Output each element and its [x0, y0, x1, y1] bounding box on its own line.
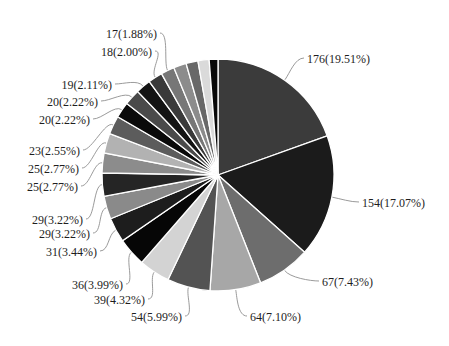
leader-line [185, 288, 189, 316]
slice-label: 176(19.51%) [307, 52, 370, 66]
slice-label: 29(3.22%) [39, 227, 90, 241]
slice-label: 20(2.22%) [47, 95, 98, 109]
leader-line [285, 271, 319, 282]
slice-label: 29(3.22%) [32, 213, 83, 227]
slice-label: 23(2.55%) [29, 144, 80, 158]
leader-line [100, 230, 116, 251]
slice-label: 17(1.88%) [106, 27, 157, 41]
leader-line [86, 185, 102, 219]
leader-line [160, 33, 167, 70]
leader-line [148, 272, 154, 299]
slice-label: 25(2.77%) [27, 180, 78, 194]
leader-line [154, 51, 158, 77]
slice-label: 20(2.22%) [39, 113, 90, 127]
pie-slices [102, 59, 334, 291]
leader-line [126, 253, 131, 285]
slice-label: 25(2.77%) [28, 162, 79, 176]
slice-label: 19(2.11%) [61, 78, 112, 92]
slice-label: 18(2.00%) [101, 45, 152, 59]
slice-label: 39(4.32%) [94, 293, 145, 307]
slice-label: 54(5.99%) [131, 310, 182, 324]
leader-line [236, 290, 247, 316]
pie-chart-canvas: 176(19.51%)154(17.07%)67(7.43%)64(7.10%)… [0, 0, 449, 346]
slice-label: 36(3.99%) [72, 278, 123, 292]
leader-line [332, 197, 359, 202]
pie-chart: 176(19.51%)154(17.07%)67(7.43%)64(7.10%)… [0, 0, 449, 346]
leader-line [93, 208, 106, 233]
leader-line [285, 58, 304, 80]
slice-label: 31(3.44%) [46, 245, 97, 259]
slice-label: 64(7.10%) [250, 310, 301, 324]
slice-label: 154(17.07%) [362, 196, 425, 210]
leader-line [101, 95, 132, 101]
leader-line [115, 82, 143, 85]
leader-line [81, 163, 102, 186]
slice-label: 67(7.43%) [322, 275, 373, 289]
